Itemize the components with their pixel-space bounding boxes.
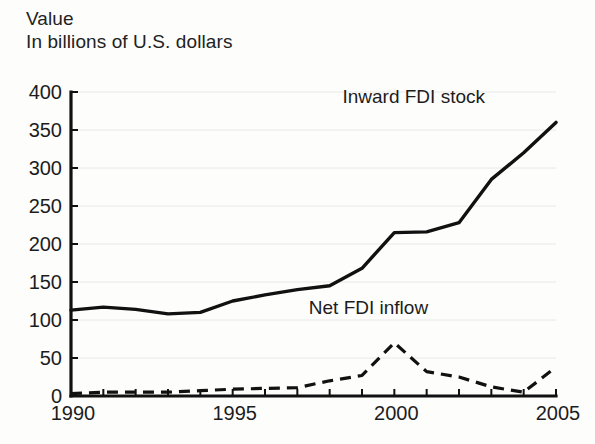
- data-series-line: [71, 122, 556, 314]
- y-axis-tick-label: 50: [40, 347, 62, 369]
- gridline-group: [71, 92, 556, 358]
- data-series-group: [71, 122, 556, 393]
- chart-figure: Value In billions of U.S. dollars 050100…: [0, 0, 595, 444]
- x-axis-tick-label: 2005: [536, 402, 581, 424]
- line-chart-plot: 050100150200250300350400 199019952000200…: [0, 0, 595, 444]
- y-axis-tick-label: 100: [29, 309, 62, 331]
- series-annotation-label: Net FDI inflow: [309, 297, 429, 318]
- x-axis-tick-label: 2000: [374, 402, 419, 424]
- data-series-line: [71, 343, 556, 394]
- y-axis-tick-label: 250: [29, 195, 62, 217]
- series-annotation-label: Inward FDI stock: [342, 86, 485, 107]
- y-axis-tick-label: 150: [29, 271, 62, 293]
- x-axis-tick-labels: 1990199520002005: [51, 402, 581, 424]
- y-axis-tick-label: 300: [29, 157, 62, 179]
- x-axis-tick-label: 1990: [51, 402, 96, 424]
- y-axis-tick-labels: 050100150200250300350400: [29, 81, 62, 407]
- y-axis-tick-label: 200: [29, 233, 62, 255]
- x-axis-tick-label: 1995: [212, 402, 257, 424]
- y-axis-tick-label: 350: [29, 119, 62, 141]
- y-axis-tick-label: 400: [29, 81, 62, 103]
